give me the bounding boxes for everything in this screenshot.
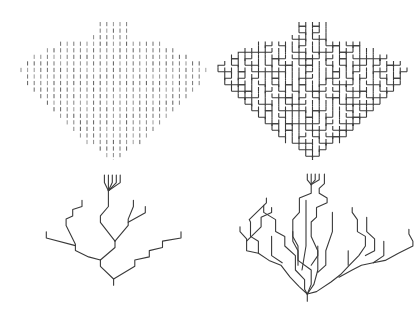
network-link (286, 124, 293, 126)
full-network-figure (210, 0, 420, 160)
network-link (259, 104, 266, 106)
network-link (340, 52, 347, 54)
network-link (306, 150, 313, 152)
network-link (245, 98, 252, 100)
network-link (360, 111, 367, 113)
network-link (252, 65, 259, 67)
network-link (326, 52, 333, 54)
network-link (313, 98, 320, 100)
network-link (238, 52, 245, 54)
network-link (306, 130, 313, 132)
network-link (346, 111, 353, 113)
network-link (380, 72, 387, 74)
network-link (299, 26, 306, 28)
network-link (299, 137, 306, 139)
network-link (265, 104, 272, 106)
network-link (279, 72, 286, 74)
tree-branch (100, 260, 113, 285)
network-link (326, 124, 333, 126)
network-link (232, 91, 239, 93)
network-link (265, 52, 272, 54)
network-link (299, 98, 306, 100)
network-link (394, 78, 401, 80)
panel-full-network (210, 0, 420, 160)
network-link (353, 124, 360, 126)
network-link (279, 59, 286, 61)
network-link (245, 91, 252, 93)
network-link (252, 72, 259, 74)
network-link (299, 143, 306, 145)
network-link (346, 98, 353, 100)
network-link (346, 85, 353, 87)
network-link (346, 91, 353, 93)
network-link (373, 98, 380, 100)
network-link (400, 72, 407, 74)
network-link (326, 137, 333, 139)
network-link (265, 72, 272, 74)
network-link (306, 156, 313, 158)
network-link (279, 98, 286, 100)
tree-branch (100, 241, 115, 260)
network-link (286, 98, 293, 100)
network-link (326, 46, 333, 48)
network-link (279, 111, 286, 113)
network-link (259, 85, 266, 87)
network-link (252, 98, 259, 100)
lattice-bonds-figure (0, 0, 210, 160)
network-link (346, 117, 353, 119)
network-link (380, 91, 387, 93)
network-link (292, 59, 299, 61)
network-link (245, 104, 252, 106)
network-link (306, 78, 313, 80)
network-link (232, 59, 239, 61)
network-link (346, 124, 353, 126)
network-link (259, 72, 266, 74)
network-link (265, 46, 272, 48)
network-link (346, 78, 353, 80)
network-link (346, 130, 353, 132)
network-link (299, 52, 306, 54)
network-link (245, 59, 252, 61)
network-link (340, 130, 347, 132)
network-link (299, 150, 306, 152)
network-link (353, 59, 360, 61)
network-link (333, 137, 340, 139)
network-link (367, 85, 374, 87)
river-branch (307, 174, 327, 294)
network-link (292, 111, 299, 113)
network-link (313, 39, 320, 41)
network-link (340, 85, 347, 87)
network-link (353, 72, 360, 74)
network-link (245, 65, 252, 67)
network-link (373, 85, 380, 87)
network-link (340, 137, 347, 139)
network-link (373, 72, 380, 74)
network-link (292, 91, 299, 93)
network-link (292, 52, 299, 54)
river-branch (339, 229, 413, 277)
tree-branch (46, 232, 75, 246)
network-link (367, 98, 374, 100)
network-link (319, 130, 326, 132)
network-link (238, 78, 245, 80)
network-link (313, 52, 320, 54)
network-link (333, 91, 340, 93)
network-link (346, 46, 353, 48)
network-link (360, 104, 367, 106)
network-link (333, 85, 340, 87)
network-link (279, 46, 286, 48)
network-link (313, 59, 320, 61)
network-link (272, 72, 279, 74)
network-link (259, 117, 266, 119)
river-branch (272, 236, 283, 262)
river-branch (307, 174, 311, 185)
network-link (360, 117, 367, 119)
network-link (299, 78, 306, 80)
network-link (218, 72, 225, 74)
network-link (306, 65, 313, 67)
network-link (367, 111, 374, 113)
network-link (299, 59, 306, 61)
network-link (292, 39, 299, 41)
network-link (313, 91, 320, 93)
network-link (299, 39, 306, 41)
